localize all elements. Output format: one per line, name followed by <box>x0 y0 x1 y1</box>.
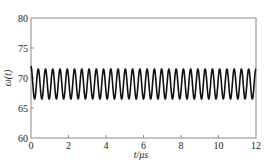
y-tick-label: 75 <box>18 43 28 54</box>
line-chart: 6065707580 024681012 ω(t) t/μs <box>0 0 269 163</box>
omega-line <box>31 66 256 99</box>
plot-frame <box>31 18 256 138</box>
x-tick-label: 12 <box>251 140 261 151</box>
y-axis-label: ω(t) <box>2 69 14 86</box>
y-tick-label: 65 <box>18 103 28 114</box>
y-tick-label: 80 <box>18 13 28 24</box>
series-omega <box>31 66 256 99</box>
x-tick-label: 8 <box>179 140 184 151</box>
x-tick-label: 2 <box>66 140 71 151</box>
y-tick-label: 70 <box>18 73 28 84</box>
x-tick-label: 10 <box>214 140 224 151</box>
x-tick-label: 4 <box>104 140 109 151</box>
x-tick-label: 0 <box>29 140 34 151</box>
x-axis-label: t/μs <box>134 149 149 160</box>
y-tick-label: 60 <box>18 133 28 144</box>
